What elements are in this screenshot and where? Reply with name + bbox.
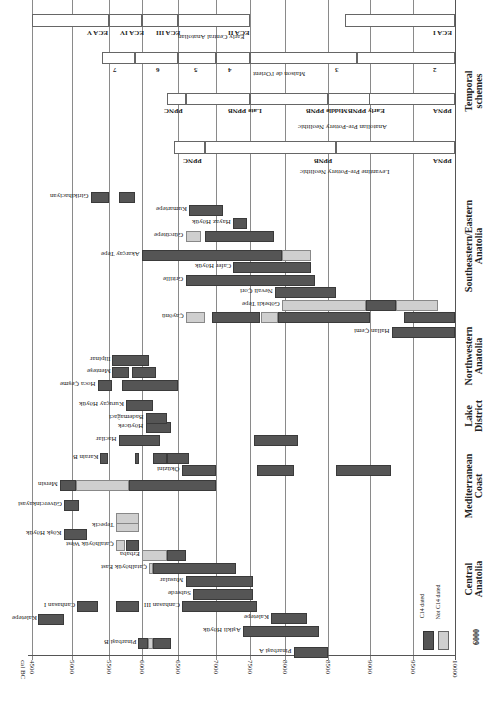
site-bar	[392, 327, 456, 338]
site-label: Kumartepe	[156, 205, 187, 213]
site-label: Aşikli Höyük	[203, 626, 241, 634]
scheme-period-box	[174, 141, 204, 154]
gridline	[142, 0, 143, 660]
site-bar	[182, 601, 257, 612]
site-bar	[142, 550, 167, 561]
site-label: Suberde	[168, 589, 191, 597]
site-label: Köşk Höyük	[26, 529, 62, 537]
site-label: Ilipinar	[90, 355, 111, 363]
scheme-period-box	[186, 93, 250, 105]
site-label: Hallan Çemi	[354, 327, 390, 335]
site-label: Tepecik	[92, 521, 114, 529]
legend-swatch-c14	[423, 631, 434, 650]
site-bar	[135, 453, 138, 464]
site-label: Gritille	[163, 275, 183, 283]
site-bar	[153, 453, 167, 464]
scheme-title-eca: Early Central Anatolian	[178, 33, 244, 41]
legend-label-c14: C14 dated	[419, 594, 425, 619]
x-tick-label: 5000	[68, 660, 76, 674]
gridline	[109, 0, 110, 660]
scheme-period-label: PPNC	[164, 107, 183, 115]
scheme-period-label: 6	[156, 66, 160, 74]
site-label: Öküzini	[157, 465, 180, 473]
x-axis-line	[28, 655, 456, 656]
scheme-period-box	[178, 52, 216, 64]
site-bar	[294, 647, 328, 658]
scheme-period-label: ECA V	[87, 29, 108, 37]
site-bar	[116, 513, 139, 524]
site-bar	[77, 601, 98, 612]
region-label-southeastern-anatolia: Southeastern/Eastern Anatolia	[464, 196, 486, 296]
site-bar	[233, 262, 311, 273]
scheme-period-box	[328, 93, 370, 105]
x-tick-label: 6500	[174, 660, 182, 674]
region-label-northwestern-anatolia: Northwestern Anatolia	[464, 321, 486, 391]
site-label: Bademağaci	[109, 413, 144, 421]
site-label: Kaletepe	[244, 613, 269, 621]
region-label-temporal-schemes: Temporal schemes	[464, 56, 486, 126]
x-tick-label: 10000	[451, 660, 459, 678]
site-bar	[122, 380, 178, 391]
site-bar	[243, 626, 319, 637]
scheme-period-box	[32, 14, 109, 27]
site-bar	[142, 250, 282, 261]
x-axis-title: cal BC	[19, 660, 27, 679]
site-bar	[257, 465, 294, 476]
site-bar	[64, 529, 87, 540]
site-bar	[186, 275, 316, 286]
site-bar	[112, 367, 129, 378]
scheme-period-box	[205, 141, 337, 154]
site-bar	[233, 218, 247, 229]
site-bar	[336, 465, 391, 476]
scheme-period-label: PPNA	[433, 157, 452, 165]
site-bar	[278, 312, 370, 323]
site-label: Cafer Höyük	[195, 262, 231, 270]
site-label: Pinarbaşi B	[104, 638, 136, 646]
site-label: Gürcütepe	[154, 231, 183, 239]
site-label: Akarçay Tepe	[101, 250, 140, 258]
site-bar	[153, 638, 171, 649]
site-bar	[189, 205, 222, 216]
legend-label-not-c14: Not C14 dated	[435, 585, 441, 620]
site-label: Mersin	[38, 480, 58, 488]
region-label-central-anatolia: Central Anatolia	[464, 544, 486, 614]
scheme-period-box	[109, 14, 142, 27]
site-bar	[98, 380, 112, 391]
x-tick-label: 8500	[324, 660, 332, 674]
site-bar	[116, 540, 126, 551]
scheme-title-maison: Maison de l'Orient	[253, 70, 305, 78]
site-label: Girikihaciyan	[50, 192, 89, 200]
site-label: Hacilar	[96, 435, 117, 443]
site-label: Güvercinkayasi	[18, 500, 62, 508]
gridline	[32, 0, 33, 660]
scheme-period-label: PPNA	[433, 107, 452, 115]
scheme-period-box	[142, 14, 178, 27]
scheme-title-levantine: Levantine Pre-Pottery Neolithic	[300, 168, 389, 176]
site-bar	[76, 480, 129, 491]
scheme-period-box	[135, 52, 178, 64]
site-label: Çatalhöyük West	[66, 540, 114, 548]
gridline	[72, 0, 73, 660]
site-bar	[193, 589, 253, 600]
scheme-period-label: 4	[228, 66, 232, 74]
site-bar	[186, 576, 254, 587]
site-bar	[91, 192, 110, 203]
site-bar	[205, 231, 275, 242]
site-label: Hoca Çeşme	[60, 380, 96, 388]
x-tick-label: 8000	[281, 660, 289, 674]
scheme-period-label: PPNB	[314, 157, 332, 165]
x-tick-label: 5500	[105, 660, 113, 674]
x-tick-label: 7500	[246, 660, 254, 674]
x-tick-label: 4500	[28, 660, 36, 674]
scheme-period-box	[250, 93, 328, 105]
site-bar	[153, 563, 237, 574]
site-bar	[112, 355, 149, 366]
site-label: Canhasan I	[44, 601, 75, 609]
region-label-lake-district: Lake District	[464, 391, 486, 441]
site-bar	[404, 312, 455, 323]
x-tick-label: 9000	[366, 660, 374, 674]
scheme-period-label: 7	[113, 66, 117, 74]
corner-year-label: 6000	[472, 622, 482, 652]
site-bar	[212, 312, 260, 323]
scheme-period-label: ECA III	[156, 29, 180, 37]
